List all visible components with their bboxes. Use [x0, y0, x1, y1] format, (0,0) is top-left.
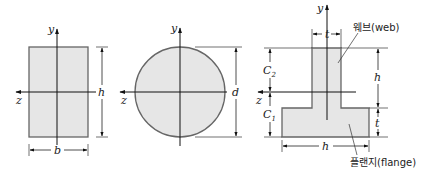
y-axis-label: y — [316, 2, 324, 15]
web-callout-label: 웨브(web) — [353, 22, 400, 33]
z-axis-label: z — [120, 94, 127, 107]
z-axis-label: z — [255, 94, 262, 107]
rectangular-section: y z h b — [15, 23, 108, 157]
c1-label: C1 — [263, 108, 276, 123]
width-b-label: b — [54, 144, 61, 157]
y-axis-label: y — [170, 22, 178, 35]
web-thickness-t-label: t — [325, 28, 330, 41]
circular-section: y z d — [120, 22, 242, 146]
cross-sections-diagram: y z h b y z d y z — [0, 0, 427, 177]
web-height-h-label: h — [374, 71, 381, 84]
flange-width-h-label: h — [322, 140, 329, 153]
y-axis-label: y — [47, 23, 55, 36]
flange-thickness-t-label: t — [375, 117, 380, 130]
z-axis-label: z — [15, 94, 22, 107]
diameter-d-label: d — [232, 86, 239, 99]
flange-callout-label: 플랜지(flange) — [350, 157, 416, 168]
height-h-label: h — [98, 86, 105, 99]
c2-label: C2 — [263, 64, 276, 79]
t-section: y z t C2 C1 h t h — [255, 2, 416, 168]
